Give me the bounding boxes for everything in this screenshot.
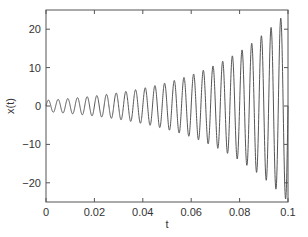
x-tick-label: 0.1	[280, 206, 295, 218]
x-tick-label: 0.06	[180, 206, 201, 218]
x-tick-label: 0	[43, 206, 49, 218]
x-axis-label: t	[165, 218, 168, 230]
y-tick-label: −10	[22, 138, 41, 150]
y-axis-label: x(t)	[4, 98, 16, 114]
chart: 00.020.040.060.080.1 20100−10−20 t x(t)	[0, 0, 308, 237]
y-tick-label: 10	[29, 62, 41, 74]
x-tick-label: 0.08	[229, 206, 250, 218]
y-tick-label: −20	[22, 177, 41, 189]
x-tick-label: 0.04	[132, 206, 153, 218]
y-tick-label: 0	[35, 100, 41, 112]
y-tick-label: 20	[29, 23, 41, 35]
x-tick-label: 0.02	[84, 206, 105, 218]
